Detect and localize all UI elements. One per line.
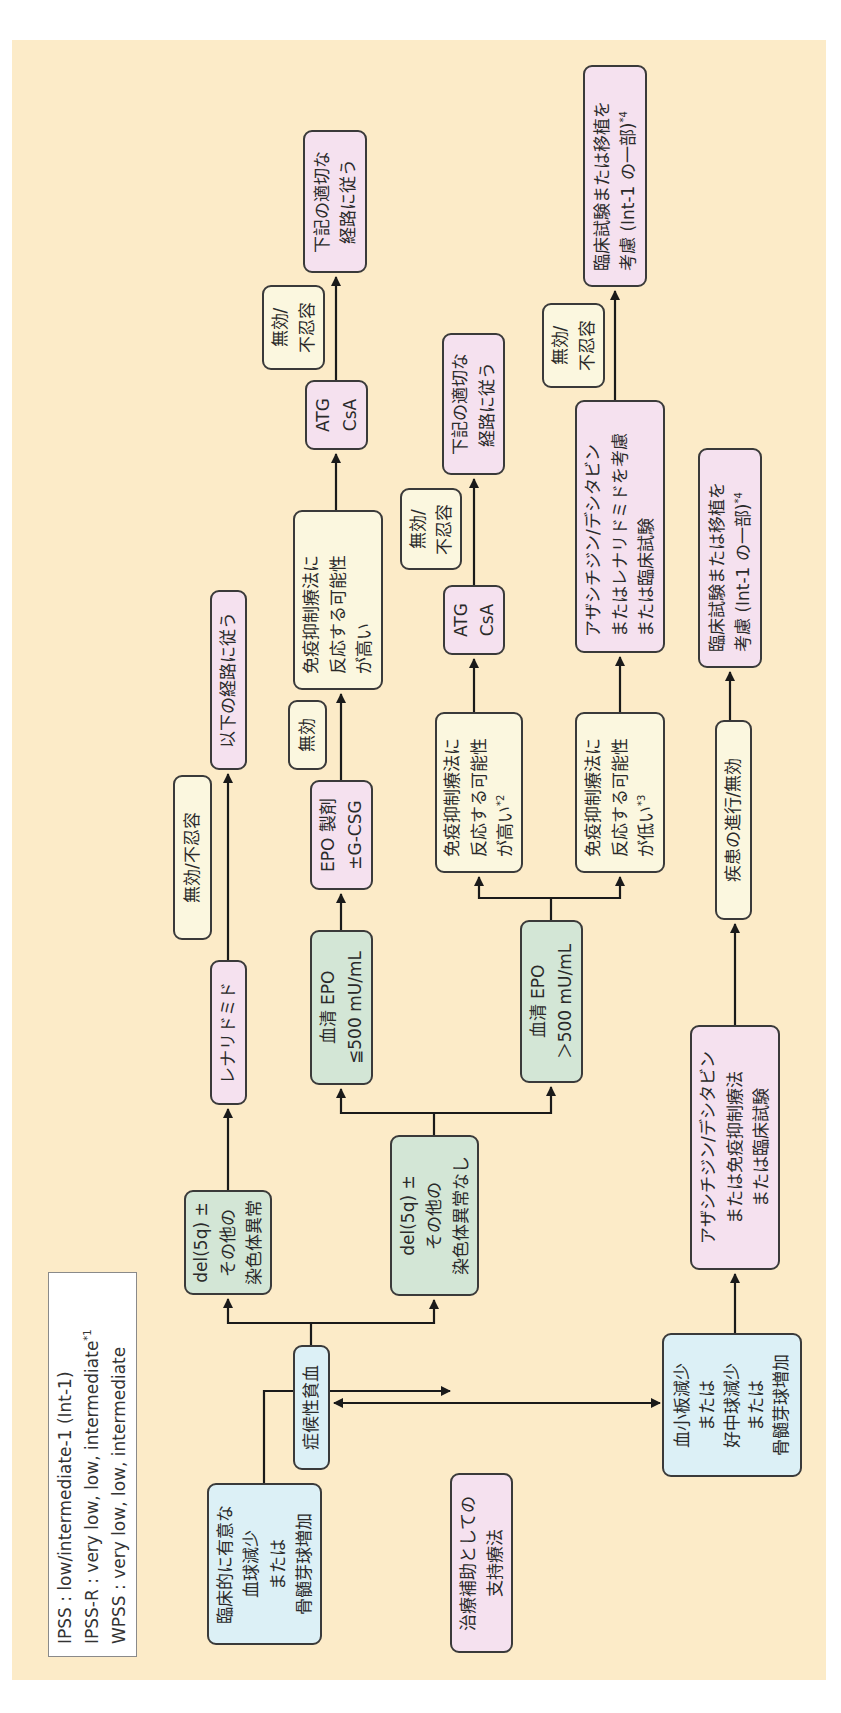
node-del5q-without-abnormality: del(5q) ± その他の 染色体異常なし — [390, 1135, 479, 1296]
legend-wpss: WPSS : very low, low, intermediate — [106, 1285, 133, 1644]
arrow-to-ist-mid — [479, 877, 551, 920]
node-cytopenia-entry: 臨床的に有意な 血球減少 または 骨髄芽球増加 — [207, 1483, 322, 1645]
node-ist-unlikely: 免疫抑制療法に 反応する可能性 が低い*3 — [575, 712, 665, 873]
arrow-to-del5q-without — [311, 1300, 434, 1323]
label-aza-failure: 無効/ 不忍容 — [542, 303, 605, 388]
node-ist-likely-top: 免疫抑制療法に 反応する可能性 が高い — [293, 510, 383, 690]
node-supportive-care: 治療補助としての 支持療法 — [450, 1473, 513, 1653]
node-epo-high: 血清 EPO ＞500 mU/mL — [520, 920, 583, 1083]
label-atg-failure-mid: 無効/ 不忍容 — [400, 488, 462, 570]
label-epo-agent-failure: 無効 — [288, 700, 327, 770]
node-epo-low: 血清 EPO ≦500 mU/mL — [310, 930, 373, 1085]
node-atg-csa-top: ATG CsA — [305, 380, 368, 450]
flowchart-canvas: IPSS : low/intermediate-1 (Int-1) IPSS-R… — [0, 0, 841, 1713]
node-thrombocytopenia: 血小板減少 または 好中球減少 または 骨髄芽球増加 — [662, 1333, 802, 1477]
node-atg-csa-mid: ATG CsA — [443, 585, 505, 655]
node-ist-likely-mid: 免疫抑制療法に 反応する可能性 が高い*2 — [435, 712, 523, 873]
arrow-to-ist-unlikely — [551, 877, 620, 898]
node-follow-path-mid: 下記の適切な 経路に従う — [442, 333, 505, 475]
label-atg-failure-top: 無効/ 不忍容 — [262, 285, 325, 370]
label-lenalidomide-failure: 無効/不忍容 — [173, 775, 212, 940]
node-symptomatic-anemia: 症候性貧血 — [293, 1345, 330, 1470]
legend-ipss-r: IPSS-R : very low, low, intermediate*1 — [79, 1285, 106, 1644]
arrow-to-del5q-with — [228, 1299, 311, 1345]
node-del5q-with-abnormality: del(5q) ± その他の 染色体異常 — [184, 1190, 272, 1295]
arrow-to-epo-low — [341, 1089, 434, 1135]
node-follow-path-top: 下記の適切な 経路に従う — [303, 130, 367, 273]
node-trial-transplant-bottom: 臨床試験または移植を 考慮 (Int-1 の一部)*4 — [698, 448, 762, 668]
node-epo-agent: EPO 製剤 ±G-CSG — [310, 780, 373, 890]
node-lenalidomide: レナリドミド — [210, 960, 247, 1105]
risk-legend: IPSS : low/intermediate-1 (Int-1) IPSS-R… — [48, 1272, 137, 1657]
node-aza-ist-trial: アザシチジン/デシタビン または免疫抑制療法 または臨床試験 — [690, 1025, 780, 1270]
node-trial-transplant-top: 臨床試験または移植を 考慮 (Int-1 の一部)*4 — [583, 65, 647, 287]
arrow-entry-to-support — [264, 1391, 450, 1483]
node-follow-path-below: 以下の経路に従う — [210, 590, 247, 770]
legend-ipss: IPSS : low/intermediate-1 (Int-1) — [52, 1285, 79, 1644]
arrow-to-epo-high — [434, 1087, 551, 1113]
node-aza-lenalidomide-trial: アザシチジン/デシタビン またはレナリドミドを考慮 または臨床試験 — [575, 400, 665, 653]
node-progression-failure: 疾患の進行/無効 — [715, 720, 752, 920]
